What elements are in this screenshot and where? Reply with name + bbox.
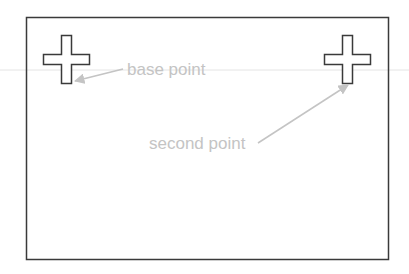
- second-point-leader-arrow: [258, 85, 348, 143]
- diagram-canvas: base point second point: [0, 0, 409, 274]
- second-point-label: second point: [149, 134, 246, 153]
- base-point-label: base point: [127, 60, 206, 79]
- cross-icon: [44, 36, 90, 84]
- base-point-leader-arrow: [75, 69, 123, 81]
- cross-icon: [325, 36, 371, 84]
